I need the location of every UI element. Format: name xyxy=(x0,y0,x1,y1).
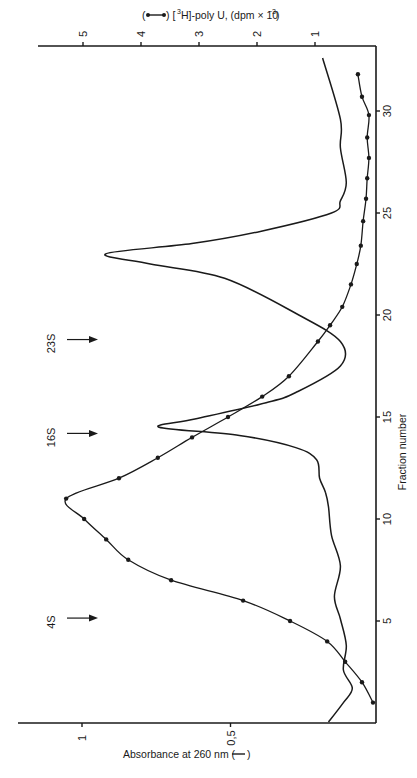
dpm-axis-ticks: 12345 xyxy=(77,31,321,46)
poly-u-data-point xyxy=(328,323,332,327)
svg-text:(: ( xyxy=(142,9,146,21)
svg-text:Absorbance at 260 nm (: Absorbance at 260 nm ( xyxy=(123,748,236,760)
poly-u-data-point xyxy=(190,435,194,439)
poly-u-data-point xyxy=(241,598,245,602)
absorbance-tick-label: 1 xyxy=(76,735,88,741)
svg-text:): ) xyxy=(247,748,251,760)
poly-u-data-point xyxy=(156,456,160,460)
poly-u-curve xyxy=(65,74,373,702)
dpm-tick-label: 2 xyxy=(251,31,263,37)
poly-u-data-point xyxy=(325,639,329,643)
poly-u-data-point xyxy=(288,619,292,623)
marker-label-16s: 16S xyxy=(45,428,57,448)
absorbance-axis-title: Absorbance at 260 nm ( ) xyxy=(123,748,251,760)
arrowhead-icon xyxy=(89,336,98,343)
poly-u-data-point xyxy=(364,197,368,201)
dpm-tick-label: 5 xyxy=(77,31,89,37)
absorbance-curve xyxy=(105,58,352,722)
legend-dpm-dot-icon xyxy=(146,13,150,17)
dpm-axis-title: ( ) [ 3 H]-poly U, (dpm × 10 −3 ) xyxy=(142,8,280,21)
poly-u-data-point xyxy=(287,374,291,378)
poly-u-data-point xyxy=(355,262,359,266)
poly-u-data-point xyxy=(365,135,369,139)
fraction-tick-label: 5 xyxy=(381,618,393,624)
poly-u-data-point xyxy=(126,558,130,562)
absorbance-axis-ticks: 0,51 xyxy=(76,723,237,746)
poly-u-data-point xyxy=(367,113,371,117)
poly-u-data-point xyxy=(343,660,347,664)
fraction-axis-title: Fraction number xyxy=(396,413,408,490)
svg-text:−3: −3 xyxy=(268,8,276,15)
svg-text:): ) xyxy=(276,9,280,21)
marker-label-23s: 23S xyxy=(45,334,57,354)
poly-u-data-point xyxy=(367,156,371,160)
sedimentation-profile-chart: 12345 51015202530 0,51 ( ) [ 3 H]-poly U… xyxy=(0,0,417,778)
fraction-tick-label: 15 xyxy=(381,411,393,423)
poly-u-data-point xyxy=(356,72,360,76)
dpm-tick-label: 4 xyxy=(135,31,147,37)
poly-u-data-point xyxy=(349,282,353,286)
poly-u-data-point xyxy=(117,476,121,480)
fraction-tick-label: 25 xyxy=(381,207,393,219)
dpm-tick-label: 3 xyxy=(193,31,205,37)
arrowhead-icon xyxy=(89,430,98,437)
poly-u-data-point xyxy=(371,700,375,704)
fraction-tick-label: 10 xyxy=(381,513,393,525)
arrowhead-icon xyxy=(89,615,98,622)
poly-u-data-points xyxy=(64,72,375,705)
poly-u-data-point xyxy=(361,219,365,223)
absorbance-tick-label: 0,5 xyxy=(225,730,237,745)
poly-u-data-point xyxy=(82,517,86,521)
poly-u-data-point xyxy=(340,305,344,309)
poly-u-data-point xyxy=(316,339,320,343)
marker-label-4s: 4S xyxy=(45,615,57,628)
svg-text:H]-poly U, (dpm × 10: H]-poly U, (dpm × 10 xyxy=(181,9,278,21)
fraction-axis-ticks: 51015202530 xyxy=(376,105,393,624)
svg-text:) [: ) [ xyxy=(166,9,175,21)
poly-u-data-point xyxy=(169,578,173,582)
poly-u-data-point xyxy=(64,496,68,500)
poly-u-data-point xyxy=(359,243,363,247)
poly-u-data-point xyxy=(360,95,364,99)
poly-u-data-point xyxy=(260,394,264,398)
poly-u-data-point xyxy=(226,415,230,419)
fraction-tick-label: 20 xyxy=(381,309,393,321)
poly-u-data-point xyxy=(365,176,369,180)
poly-u-data-point xyxy=(360,680,364,684)
fraction-tick-label: 30 xyxy=(381,105,393,117)
dpm-tick-label: 1 xyxy=(309,31,321,37)
poly-u-data-point xyxy=(104,537,108,541)
sedimentation-markers: 4S16S23S xyxy=(45,334,98,629)
